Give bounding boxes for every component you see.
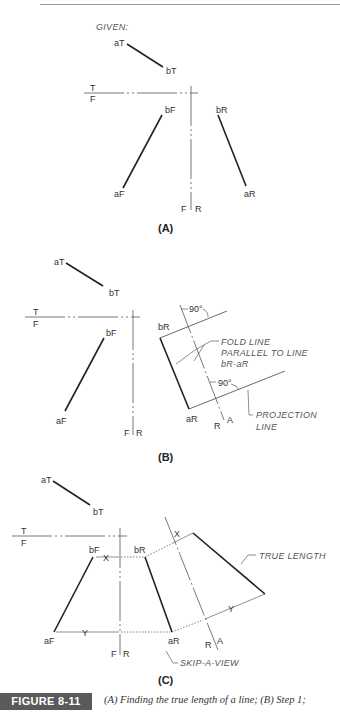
label-aT: aT: [114, 38, 125, 48]
panel-label-a: (A): [158, 222, 174, 234]
angle-label-bottom: 90°: [218, 378, 232, 388]
line-right-view: [218, 115, 246, 186]
label-aF: aF: [56, 416, 67, 426]
label-T: T: [21, 526, 27, 536]
label-bF: bF: [106, 328, 117, 338]
label-bF: bF: [89, 545, 100, 555]
label-R-fr: R: [123, 649, 130, 659]
projection-leader: [248, 390, 253, 415]
label-aF: aF: [114, 189, 125, 199]
figure-c: aT bT T F F R bF aF X Y bR aR R A X Y TR…: [0, 465, 340, 693]
label-R-ra: R: [205, 640, 212, 650]
line-front-view: [54, 557, 93, 632]
dim-y-front: Y: [82, 628, 88, 638]
label-T: T: [33, 307, 39, 317]
dim-y-aux: Y: [228, 604, 234, 614]
fold-note-line1: FOLD LINE: [221, 337, 271, 347]
label-aT: aT: [54, 257, 65, 267]
label-bT: bT: [93, 507, 104, 517]
label-R-fr: R: [195, 204, 202, 214]
label-aT: aT: [41, 475, 52, 485]
line-front-view: [123, 115, 162, 188]
figure-b: aT bT T F F R bF aF bR aR R A 90° 90° FO…: [0, 240, 340, 465]
label-bF: bF: [165, 105, 176, 115]
label-bT: bT: [166, 66, 177, 76]
label-aR: aR: [186, 414, 198, 424]
panel-label-c: (C): [158, 674, 174, 686]
label-R-ra: R: [214, 421, 221, 431]
skip-a-view-note: SKIP-A-VIEW: [180, 658, 240, 668]
fold-leader-2: [194, 345, 204, 361]
label-F-fr: F: [124, 428, 130, 438]
label-F-fr: F: [111, 649, 117, 659]
label-bT: bT: [109, 288, 120, 298]
label-bR: bR: [134, 545, 146, 555]
panel-label-b: (B): [158, 451, 174, 463]
label-F-fr: F: [181, 204, 187, 214]
projection-note-line1: PROJECTION: [256, 410, 317, 420]
line-true-length: [193, 533, 265, 594]
line-right-view: [160, 338, 189, 409]
label-aF: aF: [44, 636, 55, 646]
fold-line-ra: [165, 517, 218, 650]
label-bR: bR: [158, 322, 170, 332]
label-bR: bR: [216, 105, 228, 115]
label-aR: aR: [168, 636, 180, 646]
line-right-view: [145, 557, 172, 632]
projection-line-b: [160, 311, 227, 338]
angle-label-top: 90°: [189, 304, 203, 314]
skip-leader: [166, 651, 178, 663]
label-F: F: [33, 319, 39, 329]
label-F: F: [21, 538, 27, 548]
projection-note-line2: LINE: [256, 422, 278, 432]
caption-text: (A) Finding the true length of a line; (…: [104, 694, 306, 705]
label-F: F: [90, 94, 96, 104]
fold-leader-1: [176, 341, 219, 364]
line-top-view: [66, 263, 103, 286]
given-label: GIVEN:: [96, 22, 129, 32]
label-T: T: [90, 83, 96, 93]
figure-number-tag: FIGURE 8-11: [0, 693, 92, 710]
dim-x-aux: X: [174, 529, 180, 539]
dim-x-front: X: [103, 553, 109, 563]
label-R-fr: R: [136, 428, 143, 438]
label-aR: aR: [244, 189, 256, 199]
line-top-view: [53, 481, 90, 505]
true-length-note: TRUE LENGTH: [259, 551, 326, 561]
label-A-ra: A: [217, 636, 223, 646]
label-A-ra: A: [227, 415, 233, 425]
fold-note-line3: bR-aR: [221, 359, 249, 369]
figure-a: GIVEN: aT bT T F F R bF aF bR aR (A): [0, 0, 340, 240]
true-length-leader: [241, 555, 256, 564]
fold-note-line2: PARALLEL TO LINE: [221, 348, 309, 358]
line-front-view: [65, 338, 104, 411]
figure-caption: FIGURE 8-11 (A) Finding the true length …: [0, 693, 340, 711]
projection-line-a: [189, 371, 285, 409]
line-top-view: [127, 44, 163, 67]
